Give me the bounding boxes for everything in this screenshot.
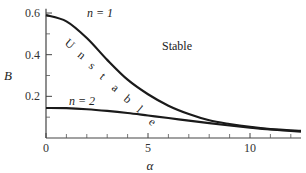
unstable-letter: s <box>86 59 99 73</box>
axes: 05100.20.40.6 <box>25 6 301 155</box>
stability-chart: 05100.20.40.6 Unstable α B n = 1 n = 2 S… <box>0 0 306 173</box>
unstable-letter: U <box>62 36 78 53</box>
x-axis-label: α <box>147 158 155 173</box>
stable-label: Stable <box>162 39 192 53</box>
x-tick-label: 5 <box>145 141 151 155</box>
x-tick-label: 10 <box>244 141 256 155</box>
unstable-letter: n <box>75 48 89 63</box>
unstable-letter: a <box>109 81 123 96</box>
y-tick-label: 0.6 <box>25 6 40 20</box>
y-axis-label: B <box>4 68 12 83</box>
curve-n1 <box>46 15 301 131</box>
y-tick-label: 0.2 <box>25 89 40 103</box>
unstable-letter: b <box>121 92 135 107</box>
curves <box>46 15 301 132</box>
unstable-letter: e <box>146 115 159 129</box>
x-tick-label: 0 <box>43 141 49 155</box>
unstable-letter: t <box>97 70 109 83</box>
y-tick-label: 0.4 <box>25 48 40 62</box>
n2-label: n = 2 <box>69 94 95 108</box>
curve-n2 <box>46 108 301 132</box>
n1-label: n = 1 <box>87 6 113 20</box>
